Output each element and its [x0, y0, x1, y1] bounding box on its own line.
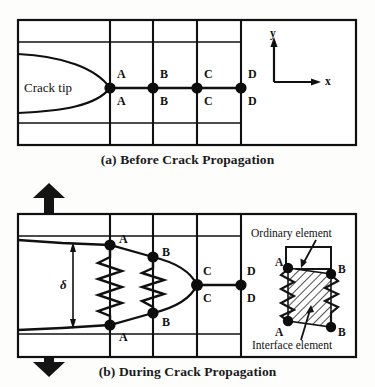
node-label-b-lower-A: A: [119, 331, 128, 343]
node-b-lower-B: [147, 307, 158, 318]
inset-node-A-top: [283, 263, 293, 273]
delta-label: δ: [60, 278, 67, 291]
node-label-b-lower-B: B: [162, 316, 170, 328]
inset-node-B-bottom: [326, 322, 336, 332]
node-b-D: [235, 279, 246, 290]
inset-label-A-top: A: [275, 257, 283, 269]
caption-panel-a: (a) Before Crack Propagation: [0, 152, 375, 168]
node-label-b-upper-A: A: [119, 233, 128, 245]
caption-panel-b: (b) During Crack Propagation: [0, 364, 375, 380]
inset-label-B-top: B: [338, 264, 346, 276]
node-label-a-lower-D: D: [248, 95, 257, 107]
crack-propagation-figure: [0, 0, 375, 387]
node-label-b-upper-D: D: [247, 265, 256, 277]
crack-tip-label: Crack tip: [24, 81, 72, 94]
inset-label-B-bottom: B: [338, 327, 346, 339]
node-label-b-lower-C: C: [203, 292, 212, 304]
inset-node-B-top: [326, 269, 336, 279]
node-b-upper-B: [147, 251, 158, 262]
axis-label-y: y: [270, 28, 276, 40]
interface-element-shape: [288, 268, 331, 327]
node-label-a-upper-D: D: [248, 68, 257, 80]
node-b-upper-A: [104, 239, 115, 250]
node-label-a-upper-C: C: [204, 68, 213, 80]
axis-label-x: x: [325, 76, 331, 88]
node-label-b-upper-B: B: [162, 246, 170, 258]
inset-node-A-bottom: [283, 316, 293, 326]
node-label-b-lower-D: D: [247, 292, 256, 304]
node-label-a-upper-B: B: [160, 68, 168, 80]
node-b-lower-A: [104, 319, 115, 330]
node-label-b-upper-C: C: [203, 265, 212, 277]
node-a-A: [104, 82, 115, 93]
load-arrow-up: [33, 183, 65, 214]
node-a-C: [191, 82, 202, 93]
node-label-a-lower-A: A: [117, 95, 126, 107]
node-a-D: [235, 82, 246, 93]
figure-root: Crack tip A B C D A B C D y x (a) Before…: [0, 0, 375, 387]
inset-label-A-bottom: A: [275, 327, 283, 339]
node-a-B: [147, 82, 158, 93]
ordinary-element-shape: [286, 247, 331, 269]
node-label-a-lower-B: B: [160, 95, 168, 107]
node-label-a-upper-A: A: [117, 68, 126, 80]
node-b-C: [191, 279, 203, 291]
ordinary-element-label: Ordinary element: [251, 228, 332, 240]
interface-element-label: Interface element: [252, 340, 332, 352]
node-label-a-lower-C: C: [204, 95, 213, 107]
